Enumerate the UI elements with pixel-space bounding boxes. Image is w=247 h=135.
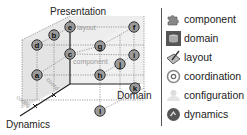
dynamics-icon [166,107,181,122]
node-e: e [65,22,75,32]
svg-text:f: f [133,23,136,32]
configuration-icon [166,88,181,103]
svg-text:b: b [52,31,57,40]
face-label-component: component [73,58,108,66]
svg-text:a: a [35,71,40,80]
axis-label-presentation: Presentation [50,6,106,17]
node-l: l [95,106,105,116]
node-b: b [49,30,59,40]
svg-text:d: d [35,41,40,50]
svg-text:e: e [68,23,73,32]
svg-text:j: j [118,60,121,69]
legend-item-domain: domain [166,29,218,47]
node-i: i [129,50,139,60]
svg-text:l: l [99,107,101,116]
node-h: h [95,70,105,80]
concern-cube-diagram: Presentation Domain Dynamics layout comp… [0,0,160,135]
node-g: g [95,41,105,51]
node-a: a [32,70,42,80]
node-j: j [115,59,125,69]
node-d: d [32,40,42,50]
legend-item-configuration: configuration [166,86,244,104]
node-c: c [65,49,75,59]
svg-text:h: h [98,71,103,80]
svg-text:g: g [98,42,103,51]
svg-text:i: i [133,51,135,60]
legend-item-component: component [166,10,236,28]
legend-item-dynamics: dynamics [166,105,228,123]
puzzle-icon [166,12,181,27]
svg-text:c: c [68,50,73,59]
database-icon [166,31,181,46]
axis-label-dynamics: Dynamics [6,119,50,130]
legend: component domain layout coordination con… [161,8,247,126]
node-k: k [130,83,140,93]
layout-icon [166,50,181,65]
face-label-layout: layout [77,24,96,32]
node-f: f [129,22,139,32]
legend-item-layout: layout [166,48,212,66]
coordination-icon [166,69,181,84]
svg-text:k: k [133,84,138,93]
legend-item-coordination: coordination [166,67,241,85]
